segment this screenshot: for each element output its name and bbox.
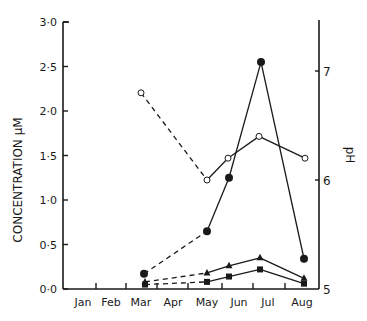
- square-marker: [301, 281, 307, 287]
- series-line: [261, 62, 304, 259]
- square-marker: [226, 274, 232, 280]
- y2-axis-label: pH: [343, 147, 357, 164]
- open-circle-marker: [302, 155, 308, 161]
- y-tick-label: 1·5: [40, 150, 58, 163]
- x-tick-label: Jun: [229, 296, 247, 309]
- series-line: [207, 178, 229, 231]
- y-tick-label: 3·0: [40, 16, 58, 29]
- filled-circle-marker: [225, 174, 233, 182]
- filled-circle-marker: [140, 270, 148, 278]
- series-line: [145, 282, 207, 285]
- square-marker: [204, 279, 210, 285]
- y-tick-label: 2·5: [40, 61, 58, 74]
- series-line: [260, 258, 304, 278]
- y2-tick-label: 5: [323, 283, 331, 297]
- filled-circle-marker: [257, 58, 265, 66]
- concentration-ph-chart: 0·00·51·01·52·02·53·0 567 JanFebMarAprMa…: [0, 0, 367, 321]
- open-circle-marker: [225, 155, 231, 161]
- x-ticks: JanFebMarAprMayJunJulAug: [74, 283, 313, 309]
- square-marker: [257, 266, 263, 272]
- y-tick-label: 2·0: [40, 105, 58, 118]
- series-line: [259, 136, 305, 158]
- x-tick-label: Jul: [260, 296, 274, 309]
- y2-tick-label: 7: [323, 65, 331, 79]
- y-tick-label: 0·5: [40, 239, 58, 252]
- x-tick-label: Feb: [101, 296, 120, 309]
- filled-circle-marker: [203, 227, 211, 235]
- series-line: [229, 258, 260, 266]
- x-tick-label: Aug: [291, 296, 312, 309]
- open-circle-marker: [204, 177, 210, 183]
- series-line: [228, 136, 259, 158]
- series-line: [144, 231, 207, 274]
- y-axis-label: CONCENTRATION µM: [11, 117, 25, 242]
- series-line: [207, 266, 229, 273]
- series-line: [145, 273, 207, 282]
- series-filled-square: [142, 266, 307, 287]
- series-line: [229, 269, 260, 276]
- x-tick-label: Mar: [131, 296, 152, 309]
- right-y-ticks: 567: [315, 65, 331, 297]
- series-line: [207, 158, 228, 180]
- series-line: [260, 269, 304, 283]
- x-tick-label: Jan: [74, 296, 92, 309]
- y2-tick-label: 6: [323, 174, 331, 188]
- series-line: [141, 93, 207, 180]
- filled-circle-marker: [300, 255, 308, 263]
- triangle-marker: [257, 254, 264, 261]
- open-circle-marker: [138, 90, 144, 96]
- x-tick-label: Apr: [163, 296, 183, 309]
- x-tick-label: May: [196, 296, 219, 309]
- open-circle-marker: [256, 133, 262, 139]
- series-line: [229, 62, 261, 178]
- series-open-circle: [138, 90, 308, 183]
- y-tick-label: 0·0: [40, 283, 58, 296]
- series-line: [207, 277, 229, 282]
- series-filled-circle: [140, 58, 308, 278]
- square-marker: [142, 282, 148, 288]
- y-tick-label: 1·0: [40, 194, 58, 207]
- data-series: [138, 58, 308, 287]
